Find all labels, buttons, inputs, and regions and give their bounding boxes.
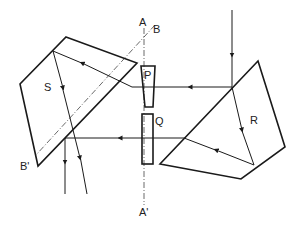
label-axis-b-bottom: B' [20,160,29,172]
label-axis-a-bottom: A' [139,206,148,218]
prism-s [20,37,137,166]
label-s: S [44,81,51,93]
label-q: Q [155,115,164,127]
ray-r-internal-down-cont [241,128,254,165]
label-r: R [250,114,258,126]
prism-r [160,61,285,179]
ray-r-internal-back [216,150,254,165]
ray-s-internal [53,51,63,88]
label-p: P [144,69,151,81]
label-axis-a-top: A [139,16,147,28]
ray-upper-refracted-cont [53,51,84,64]
prism-diagram: S R P Q A A' B B' [0,0,288,230]
ray-r-internal-back-cont [184,138,218,151]
axis-b-line [36,25,155,155]
label-axis-b-top: B [153,23,160,35]
ray-s-exit [80,156,87,194]
ray-r-internal-down [232,87,242,130]
